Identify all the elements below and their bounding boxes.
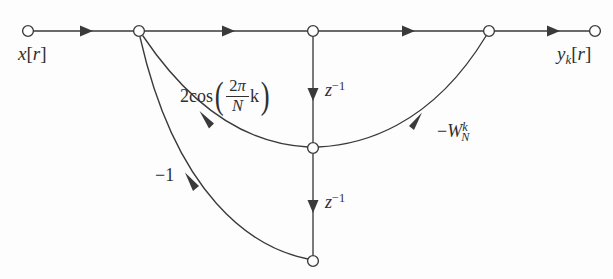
- node-output[interactable]: [590, 26, 601, 37]
- cosine-paren-close: ): [261, 78, 270, 115]
- output-bracket-close: ]: [585, 43, 591, 64]
- arrow-negative-one-feedback-icon: [185, 173, 199, 192]
- output-signal-label: yk[r]: [557, 44, 591, 67]
- edge-negative-one-feedback: [140, 37, 308, 259]
- arrow-right-to-output-icon: [547, 26, 560, 37]
- delay-2-base: z: [325, 192, 332, 212]
- cosine-gain-label: 2cos(2πNk): [180, 79, 271, 116]
- output-index: r: [578, 43, 585, 64]
- arrow-delay-2-icon: [308, 200, 319, 213]
- node-feedback-summing[interactable]: [134, 26, 145, 37]
- signal-flow-graph-figure: x[r] yk[r] z−1 z−1 2cos(2πNk) −WkN −1: [0, 0, 613, 279]
- twiddle-subscript: N: [461, 130, 469, 144]
- node-state-top[interactable]: [308, 26, 319, 37]
- delay-2-label: z−1: [325, 192, 345, 211]
- arrow-split-to-top-center-icon: [222, 26, 235, 37]
- cosine-fraction: 2πN: [226, 78, 249, 114]
- twiddle-gain-label: −WkN: [437, 121, 469, 144]
- input-signal-label: x[r]: [18, 44, 47, 63]
- cosine-lead: 2cos: [180, 86, 213, 106]
- input-bracket-close: ]: [40, 43, 46, 64]
- arrow-top-center-to-right-icon: [402, 26, 415, 37]
- cosine-multiplier: k: [250, 86, 259, 106]
- delay-1-label: z−1: [325, 80, 345, 99]
- delay-1-exponent: −1: [332, 79, 345, 93]
- cosine-numerator: 2π: [226, 78, 249, 97]
- cosine-numerator-symbol: π: [238, 76, 246, 95]
- arrow-input-to-split-icon: [80, 26, 93, 37]
- negative-one-gain-label: −1: [155, 166, 174, 184]
- flowgraph-canvas: [0, 0, 613, 279]
- node-state-middle[interactable]: [308, 143, 319, 154]
- arrow-delay-1-icon: [308, 88, 319, 101]
- twiddle-base: W: [447, 121, 462, 141]
- node-output-summing[interactable]: [484, 26, 495, 37]
- node-input[interactable]: [23, 26, 34, 37]
- node-state-bottom[interactable]: [308, 256, 319, 267]
- twiddle-sign: −: [437, 121, 447, 141]
- cosine-paren-open: (: [215, 78, 224, 115]
- cosine-numerator-coeff: 2: [229, 76, 237, 95]
- arrow-twiddle-feedforward-icon: [409, 113, 422, 131]
- delay-1-base: z: [325, 80, 332, 100]
- delay-2-exponent: −1: [332, 191, 345, 205]
- cosine-denominator: N: [226, 97, 249, 115]
